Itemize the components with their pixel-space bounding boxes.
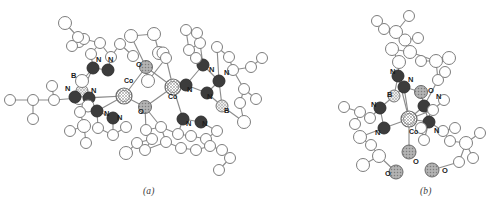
atom-label-co: Co	[168, 93, 177, 100]
atom-label-n: N	[408, 75, 413, 84]
atom-label-b: B	[387, 90, 393, 99]
atom-c	[475, 128, 486, 139]
atom-c	[214, 165, 225, 176]
atom-c	[161, 53, 172, 64]
atom-c	[5, 95, 16, 106]
atom-c	[366, 140, 377, 151]
atom-label-b: B	[71, 71, 77, 80]
atom-c	[257, 53, 268, 64]
atom-c	[443, 52, 456, 65]
atom-c	[115, 39, 126, 50]
atom-o	[425, 163, 439, 177]
atom-c	[28, 114, 39, 125]
atom-label-n: N	[224, 68, 229, 77]
atom-c	[120, 147, 133, 160]
atom-c	[140, 145, 151, 156]
atom-c	[212, 42, 223, 53]
atom-label-o: O	[442, 166, 448, 175]
atom-c	[390, 26, 403, 39]
atom-c	[235, 98, 246, 109]
atom-c	[191, 53, 202, 64]
atom-c	[246, 62, 257, 73]
atom-c	[147, 134, 158, 145]
atom-c	[413, 33, 424, 44]
atom-c	[339, 102, 350, 113]
atom-c	[86, 49, 97, 60]
atom-c	[225, 153, 236, 164]
atom-label-n: N	[209, 65, 214, 74]
atom-c	[75, 107, 86, 118]
atom-c	[59, 17, 72, 30]
atom-c	[239, 84, 250, 95]
atom-c	[238, 116, 251, 129]
atom-label-n: N	[91, 86, 96, 95]
atom-c	[176, 143, 187, 154]
atom-c	[350, 119, 361, 130]
atom-c	[365, 113, 376, 124]
atom-c	[454, 157, 465, 168]
atom-c	[65, 126, 76, 137]
atom-spheres	[5, 11, 486, 180]
atom-c	[148, 28, 161, 41]
atom-c	[386, 43, 399, 56]
atom-c	[445, 136, 456, 147]
atom-c	[195, 38, 206, 49]
atom-text-labels: NNOCoBNNNNOCoNNNNBNNNNBONNNCoNOOO	[65, 55, 448, 178]
atom-c	[186, 131, 197, 142]
atom-label-n: N	[65, 84, 70, 93]
atom-label-n: N	[108, 55, 113, 64]
atom-c	[47, 81, 58, 92]
atom-label-o: O	[138, 107, 144, 116]
atom-label-n: N	[390, 67, 395, 76]
atom-c	[354, 131, 367, 144]
atom-o	[415, 86, 428, 99]
atom-label-b: B	[224, 106, 230, 115]
atom-c	[121, 122, 132, 133]
atom-label-n: N	[186, 119, 191, 128]
atom-c	[373, 150, 386, 163]
atom-label-n: N	[436, 92, 441, 101]
atom-c	[125, 30, 138, 43]
atom-label-co: Co	[124, 77, 133, 84]
atom-n	[69, 91, 81, 103]
atom-c	[440, 67, 451, 78]
atom-o	[389, 165, 403, 179]
atom-c	[251, 94, 262, 105]
atom-label-o: O	[385, 169, 391, 178]
atom-c	[181, 25, 192, 36]
atom-c	[161, 137, 172, 148]
atom-label-n: N	[117, 113, 122, 122]
atom-c	[450, 123, 461, 134]
atom-c	[156, 122, 167, 133]
atom-c	[404, 11, 415, 22]
atom-label-n: N	[187, 85, 192, 94]
atom-label-n: N	[202, 119, 207, 128]
atom-label-n: N	[104, 109, 109, 118]
atom-c	[372, 16, 383, 27]
atom-c	[205, 141, 216, 152]
atom-c	[416, 56, 427, 67]
atom-c	[76, 75, 89, 88]
atom-label-n: N	[434, 126, 439, 135]
atom-label-n: N	[371, 100, 376, 109]
atom-label-o: O	[136, 60, 142, 69]
atom-c	[95, 38, 106, 49]
atom-c	[428, 105, 439, 116]
atom-c	[460, 137, 473, 150]
atom-c	[73, 32, 84, 43]
panel-caption-b: (b)	[420, 186, 432, 196]
atom-c	[78, 120, 91, 133]
atom-label-n: N	[207, 92, 212, 101]
molecular-structure-svg: NNOCoBNNNNOCoNNNNBNNNNBONNNCoNOOO	[0, 0, 504, 214]
atom-c	[404, 46, 417, 59]
atom-label-n: N	[375, 128, 380, 137]
atom-c	[93, 123, 104, 134]
atom-label-co: Co	[409, 128, 418, 135]
atom-label-n: N	[96, 55, 101, 64]
atom-c	[357, 159, 370, 172]
atom-c	[419, 135, 430, 146]
atom-c	[192, 28, 203, 39]
atom-label-o: O	[413, 157, 419, 166]
atom-c	[355, 107, 366, 118]
atom-c	[430, 55, 443, 68]
